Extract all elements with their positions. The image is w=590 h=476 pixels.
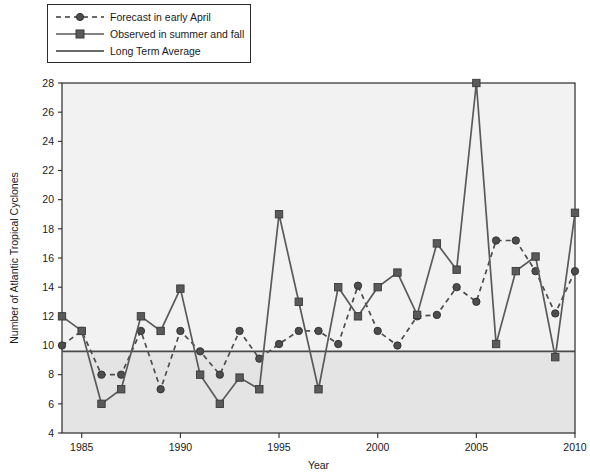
y-axis-tick-label: 12 xyxy=(42,310,54,322)
data-point-observed xyxy=(58,313,65,320)
data-point-forecast xyxy=(335,340,342,347)
data-point-observed xyxy=(532,253,539,260)
legend-item-long-term-average: Long Term Average xyxy=(54,43,201,59)
x-axis-tick-label: 1990 xyxy=(169,441,193,453)
data-point-forecast xyxy=(552,310,559,317)
x-axis-tick-label: 1985 xyxy=(70,441,94,453)
y-axis-tick-label: 28 xyxy=(42,77,54,89)
legend-swatch-dashed-circle xyxy=(54,10,106,24)
y-axis-tick-label: 10 xyxy=(42,339,54,351)
data-point-observed xyxy=(216,400,223,407)
data-point-observed xyxy=(335,283,342,290)
data-point-observed xyxy=(315,386,322,393)
y-axis-tick-label: 16 xyxy=(42,252,54,264)
data-point-forecast xyxy=(295,327,302,334)
legend-swatch-solid-square xyxy=(54,27,106,41)
data-point-forecast xyxy=(433,311,440,318)
legend-label-forecast: Forecast in early April xyxy=(110,10,211,24)
y-axis-tick-label: 26 xyxy=(42,106,54,118)
data-point-forecast xyxy=(98,371,105,378)
y-axis-tick-label: 14 xyxy=(42,281,54,293)
x-axis-title: Year xyxy=(308,459,330,471)
data-point-observed xyxy=(413,311,420,318)
data-point-observed xyxy=(78,327,85,334)
data-point-observed xyxy=(295,298,302,305)
chart-plot-area: 4681012141618202224262819851990199520002… xyxy=(0,0,590,476)
y-axis-tick-label: 24 xyxy=(42,135,54,147)
data-point-forecast xyxy=(354,282,361,289)
data-point-observed xyxy=(354,313,361,320)
legend-label-long-term-average: Long Term Average xyxy=(110,44,201,58)
chart-figure: Forecast in early April Observed in summ… xyxy=(0,0,590,476)
data-point-observed xyxy=(117,386,124,393)
data-point-observed xyxy=(157,327,164,334)
data-point-forecast xyxy=(157,386,164,393)
x-axis-tick-label: 2000 xyxy=(366,441,390,453)
data-point-forecast xyxy=(196,348,203,355)
y-axis-tick-label: 4 xyxy=(48,427,54,439)
data-point-forecast xyxy=(236,327,243,334)
data-point-observed xyxy=(473,79,480,86)
data-point-observed xyxy=(552,353,559,360)
y-axis-title: Number of Atlantic Tropical Cyclones xyxy=(8,172,20,344)
x-axis-tick-label: 1995 xyxy=(267,441,291,453)
data-point-observed xyxy=(571,209,578,216)
data-point-forecast xyxy=(453,283,460,290)
y-axis-tick-label: 20 xyxy=(42,193,54,205)
y-axis-tick-label: 18 xyxy=(42,223,54,235)
data-point-forecast xyxy=(275,340,282,347)
data-point-forecast xyxy=(315,327,322,334)
data-point-observed xyxy=(433,240,440,247)
data-point-observed xyxy=(512,267,519,274)
data-point-forecast xyxy=(216,371,223,378)
data-point-forecast xyxy=(473,298,480,305)
x-axis-tick-label: 2005 xyxy=(465,441,489,453)
data-point-observed xyxy=(98,400,105,407)
x-axis-tick-label: 2010 xyxy=(563,441,587,453)
data-point-observed xyxy=(394,269,401,276)
legend-item-observed: Observed in summer and fall xyxy=(54,26,244,42)
data-point-forecast xyxy=(394,342,401,349)
data-point-observed xyxy=(196,371,203,378)
data-point-forecast xyxy=(571,267,578,274)
y-axis-tick-label: 8 xyxy=(48,368,54,380)
data-point-forecast xyxy=(374,327,381,334)
legend-swatch-solid-line xyxy=(54,44,106,58)
y-axis-tick-label: 22 xyxy=(42,164,54,176)
data-point-observed xyxy=(492,340,499,347)
chart-legend: Forecast in early April Observed in summ… xyxy=(47,4,251,63)
data-point-observed xyxy=(374,283,381,290)
data-point-observed xyxy=(275,211,282,218)
data-point-observed xyxy=(177,285,184,292)
y-axis-tick-label: 6 xyxy=(48,398,54,410)
data-point-forecast xyxy=(492,237,499,244)
legend-item-forecast: Forecast in early April xyxy=(54,9,211,25)
data-point-observed xyxy=(453,266,460,273)
data-point-forecast xyxy=(512,237,519,244)
legend-label-observed: Observed in summer and fall xyxy=(110,27,244,41)
data-point-observed xyxy=(137,313,144,320)
data-point-forecast xyxy=(58,342,65,349)
data-point-observed xyxy=(256,386,263,393)
data-point-observed xyxy=(236,374,243,381)
data-point-forecast xyxy=(177,327,184,334)
